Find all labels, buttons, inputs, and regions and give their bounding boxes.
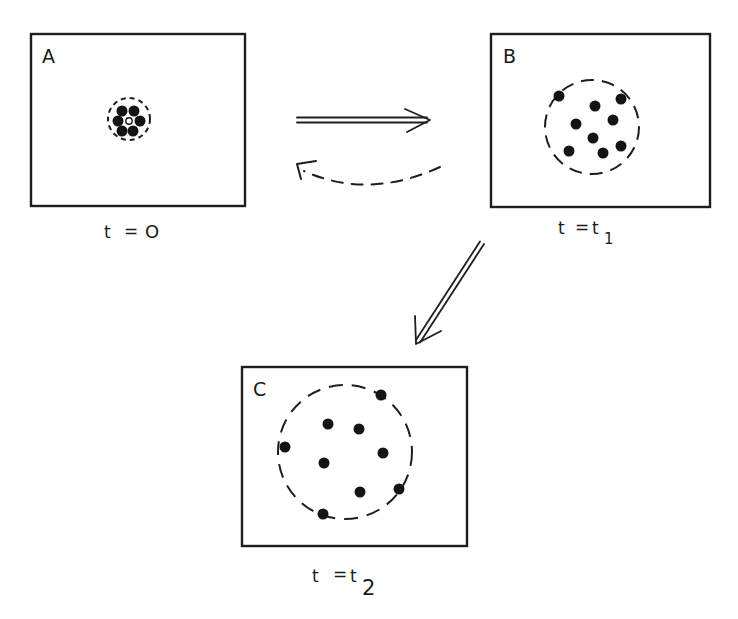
time-subscript: 1 (604, 230, 614, 248)
forward-arrow-b-to-c (415, 242, 484, 345)
particle (394, 484, 405, 495)
time-value: t (350, 566, 357, 586)
center-marker (126, 118, 132, 124)
diffusion-diagram: A t = O B (0, 0, 738, 619)
time-symbol: t (104, 222, 111, 242)
particle (318, 509, 329, 520)
particle (135, 116, 146, 127)
particle (554, 91, 565, 102)
particle (376, 390, 387, 401)
time-value: t (592, 218, 599, 238)
particle (616, 141, 627, 152)
arrowhead-left-icon (297, 161, 316, 179)
time-subscript: 2 (362, 576, 375, 600)
arrow-shaft-left (416, 242, 480, 341)
particle (129, 106, 140, 117)
particle (117, 126, 128, 137)
panel-c-time-label: t = t 2 (312, 564, 375, 600)
equals-sign: = (575, 217, 589, 237)
particle (113, 116, 124, 127)
particle (128, 126, 139, 137)
particle (616, 94, 627, 105)
time-symbol: t (558, 218, 565, 238)
particle (571, 119, 582, 130)
particle (319, 458, 330, 469)
particle (608, 115, 619, 126)
arrow-shaft-right (420, 244, 484, 343)
particle (564, 146, 575, 157)
particle (354, 424, 365, 435)
panel-a: A t = O (31, 34, 245, 242)
arrowhead-right-icon (405, 109, 430, 132)
particle (588, 133, 599, 144)
panel-b-letter: B (503, 45, 516, 67)
particle (117, 106, 128, 117)
dashed-curve (304, 167, 440, 185)
time-value: O (145, 221, 159, 242)
panel-a-time-label: t = O (104, 221, 159, 242)
particle (355, 487, 366, 498)
panel-c-letter: C (253, 378, 266, 400)
particle (280, 442, 291, 453)
equals-sign: = (124, 221, 138, 241)
reverse-arrow-b-to-a (297, 161, 440, 185)
panel-b-time-label: t = t 1 (558, 217, 614, 248)
time-symbol: t (312, 566, 319, 586)
panel-b: B t = t 1 (491, 34, 710, 248)
panel-a-letter: A (42, 45, 55, 67)
particle (378, 448, 389, 459)
particle (590, 101, 601, 112)
particle (598, 148, 609, 159)
particle (323, 419, 334, 430)
equals-sign: = (333, 564, 347, 584)
forward-arrow-a-to-b (297, 109, 430, 132)
panel-b-frame (491, 34, 710, 207)
panel-c: C t = t 2 (242, 367, 467, 600)
